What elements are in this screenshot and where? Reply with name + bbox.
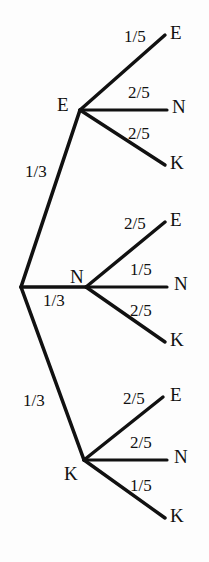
edge-root-to-e [21, 110, 80, 287]
leaf-label-e-n: N [172, 97, 186, 116]
probability-root-to-n: 1/3 [43, 292, 65, 309]
leaf-label-e-e: E [170, 23, 182, 42]
probability-k-to-e: 2/5 [123, 390, 145, 407]
probability-root-to-k: 1/3 [23, 392, 45, 409]
edge-n-to-k [86, 287, 165, 342]
leaf-label-n-k: K [170, 330, 184, 349]
edge-e-to-k [80, 110, 165, 165]
probability-root-to-e: 1/3 [25, 163, 47, 180]
leaf-label-n-n: N [174, 274, 188, 293]
leaf-label-k-k: K [170, 506, 184, 525]
edge-k-to-k [84, 460, 165, 518]
leaf-label-k-n: N [174, 447, 188, 466]
probability-e-to-n: 2/5 [128, 84, 150, 101]
leaf-label-e-k: K [170, 153, 184, 172]
probability-k-to-n: 2/5 [130, 434, 152, 451]
probability-k-to-k: 1/5 [130, 477, 152, 494]
leaf-label-n-e: E [170, 210, 182, 229]
node-label-e: E [57, 95, 69, 114]
probability-n-to-n: 1/5 [130, 261, 152, 278]
probability-e-to-k: 2/5 [128, 125, 150, 142]
leaf-label-k-e: E [170, 385, 182, 404]
probability-e-to-e: 1/5 [124, 28, 146, 45]
probability-n-to-k: 2/5 [130, 302, 152, 319]
probability-tree-diagram: E N K 1/3 1/3 1/3 1/5 E 2/5 N 2/5 K 2/5 … [0, 0, 209, 562]
edge-root-to-k [21, 287, 84, 460]
node-label-n: N [70, 267, 84, 286]
node-label-k: K [64, 464, 78, 483]
probability-n-to-e: 2/5 [124, 215, 146, 232]
edge-e-to-e [80, 35, 165, 110]
